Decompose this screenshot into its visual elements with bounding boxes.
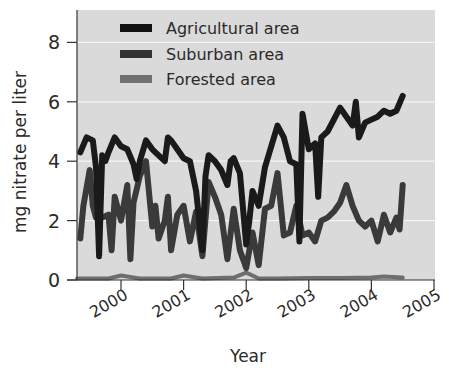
- y-tick-label: 4: [48, 150, 60, 172]
- y-axis-label: mg nitrate per liter: [10, 71, 30, 233]
- legend-label-forested: Forested area: [166, 70, 276, 89]
- legend-swatch-forested: [120, 75, 152, 83]
- x-tick-label: 2000: [86, 285, 131, 322]
- legend: Agricultural area Suburban area Forested…: [120, 19, 300, 89]
- y-axis-ticks: 02468: [48, 31, 77, 291]
- x-axis-label: Year: [229, 346, 266, 366]
- x-axis-ticks: 200020012002200320042005: [86, 280, 444, 322]
- x-tick-label: 2005: [399, 285, 444, 322]
- legend-swatch-suburban: [120, 50, 152, 58]
- y-tick-label: 8: [48, 31, 60, 53]
- y-tick-label: 0: [48, 269, 60, 291]
- legend-label-agricultural: Agricultural area: [166, 19, 300, 38]
- x-tick-label: 2003: [274, 285, 319, 322]
- y-tick-label: 6: [48, 91, 60, 113]
- legend-label-suburban: Suburban area: [166, 45, 284, 64]
- x-tick-label: 2001: [149, 285, 194, 322]
- nitrate-line-chart: 02468 200020012002200320042005 mg nitrat…: [0, 0, 449, 372]
- x-tick-label: 2004: [337, 285, 382, 322]
- x-tick-label: 2002: [211, 285, 256, 322]
- legend-swatch-agricultural: [120, 24, 152, 32]
- y-tick-label: 2: [48, 210, 60, 232]
